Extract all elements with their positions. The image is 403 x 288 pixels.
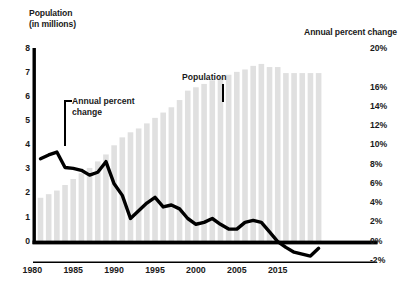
left-axis-tick-label: 5 bbox=[0, 115, 30, 125]
bar bbox=[87, 168, 93, 242]
bar bbox=[316, 73, 322, 242]
annotation-apc-line2: change bbox=[72, 107, 135, 118]
bar bbox=[242, 69, 248, 241]
bar bbox=[144, 123, 150, 241]
bar bbox=[46, 194, 52, 241]
left-axis-tick-label: 7 bbox=[0, 67, 30, 77]
bar bbox=[291, 73, 297, 242]
annotation-apc-leader-line bbox=[64, 100, 66, 146]
right-axis-tick-label: 10% bbox=[370, 139, 403, 149]
right-axis-tick-label: 2% bbox=[370, 216, 403, 226]
left-axis-tick-label: 4 bbox=[0, 139, 30, 149]
bar bbox=[70, 179, 76, 242]
bar bbox=[218, 77, 224, 241]
bar bbox=[152, 118, 158, 242]
bar bbox=[177, 100, 183, 242]
bar bbox=[54, 191, 60, 242]
bar bbox=[259, 64, 265, 242]
chart-canvas: Population (in millions) Annual percent … bbox=[0, 0, 403, 288]
bar bbox=[267, 67, 273, 242]
left-axis-tick-label: 1 bbox=[0, 212, 30, 222]
annotation-annual-percent-change: Annual percent change bbox=[72, 96, 135, 118]
bar bbox=[308, 73, 314, 242]
bar bbox=[169, 107, 175, 241]
right-axis-tick-label: 8% bbox=[370, 159, 403, 169]
right-axis-tick-label: 12% bbox=[370, 120, 403, 130]
bar bbox=[38, 198, 44, 242]
bar bbox=[128, 132, 134, 241]
y-axis-line bbox=[33, 48, 36, 244]
bar bbox=[250, 66, 256, 242]
bar bbox=[79, 173, 85, 241]
bar bbox=[275, 67, 281, 242]
bar bbox=[299, 73, 305, 242]
x-axis-tick-label: 1985 bbox=[63, 265, 83, 275]
bar bbox=[193, 87, 199, 241]
x-axis-tick-label: 2015 bbox=[268, 265, 288, 275]
left-axis-tick-label: 3 bbox=[0, 163, 30, 173]
left-axis-tick-label: 8 bbox=[0, 43, 30, 53]
x-axis-tick-label: 1980 bbox=[23, 265, 43, 275]
x-axis-tick-label: 2005 bbox=[227, 265, 247, 275]
left-axis-tick-label: 0 bbox=[0, 236, 30, 246]
annotation-apc-line1: Annual percent bbox=[72, 96, 135, 107]
bar bbox=[234, 72, 240, 242]
bar bbox=[283, 73, 289, 242]
x-axis-rule bbox=[33, 262, 377, 264]
right-axis-tick-label: 16% bbox=[370, 82, 403, 92]
bar bbox=[111, 145, 117, 241]
annotation-apc-leader-tick bbox=[64, 100, 72, 102]
right-axis-tick-label: 0% bbox=[370, 236, 403, 246]
bars-group bbox=[38, 64, 322, 242]
bar bbox=[226, 75, 232, 242]
bar bbox=[136, 128, 142, 241]
right-axis-tick-label: 20% bbox=[370, 43, 403, 53]
x-axis-tick-label: 1990 bbox=[104, 265, 124, 275]
annotation-population: Population bbox=[182, 72, 226, 83]
plot-area bbox=[0, 0, 403, 288]
x-axis-tick-label: 2000 bbox=[186, 265, 206, 275]
bar bbox=[120, 137, 126, 241]
x-axis-tick-label: 1995 bbox=[145, 265, 165, 275]
bar bbox=[62, 185, 68, 242]
right-axis-tick-label: 14% bbox=[370, 101, 403, 111]
right-axis-tick-label: -2% bbox=[370, 255, 403, 265]
right-axis-tick-label: 6% bbox=[370, 178, 403, 188]
x-axis-baseline bbox=[33, 241, 378, 245]
annotation-population-leader-line bbox=[222, 84, 224, 102]
bar bbox=[160, 113, 166, 242]
right-axis-tick-label: 4% bbox=[370, 197, 403, 207]
left-axis-tick-label: 6 bbox=[0, 91, 30, 101]
bar bbox=[201, 84, 207, 242]
left-axis-tick-label: 2 bbox=[0, 187, 30, 197]
